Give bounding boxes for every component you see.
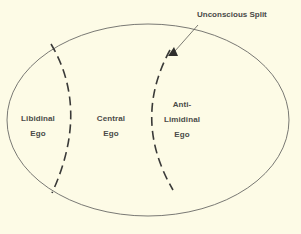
anti-line1: Anti- [157, 97, 207, 112]
anti-line2: Limidinal [157, 112, 207, 127]
callout-unconscious-split: Unconscious Split [197, 10, 267, 19]
callout-leader-line [175, 25, 198, 51]
label-anti-limidinal-ego: Anti- Limidinal Ego [157, 97, 207, 142]
label-libidinal-ego: Libidinal Ego [14, 111, 62, 141]
central-line1: Central [88, 111, 134, 126]
anti-line3: Ego [157, 127, 207, 142]
central-line2: Ego [88, 126, 134, 141]
label-central-ego: Central Ego [88, 111, 134, 141]
libidinal-line1: Libidinal [14, 111, 62, 126]
libidinal-line2: Ego [14, 126, 62, 141]
